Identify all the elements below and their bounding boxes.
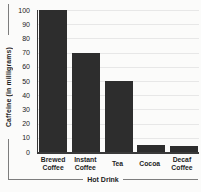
- ytick-0: 0: [0, 148, 30, 157]
- ytick-20: 20: [0, 119, 30, 128]
- ytick-90: 90: [0, 20, 30, 29]
- ytick-100: 100: [0, 6, 30, 15]
- bar-cocoa: [137, 145, 165, 152]
- ytick-30: 30: [0, 105, 30, 114]
- ytick-70: 70: [0, 48, 30, 57]
- x-axis-title: Hot Drink: [87, 176, 119, 183]
- plot-area: [37, 10, 199, 154]
- bar-instant-coffee: [72, 53, 100, 152]
- bar-brewed-coffee: [39, 10, 67, 152]
- x-axis-title-row: Hot Drink: [8, 174, 198, 184]
- x-axis-category-labels: Brewed CoffeeInstant CoffeeTeaCocoaDecaf…: [37, 155, 198, 173]
- bar-tea: [105, 81, 133, 152]
- xlabel-brewed-coffee: Brewed Coffee: [37, 155, 69, 173]
- ytick-50: 50: [0, 77, 30, 86]
- ytick-80: 80: [0, 34, 30, 43]
- xlabel-cocoa: Cocoa: [134, 155, 166, 173]
- ytick-40: 40: [0, 91, 30, 100]
- bar-decaf-coffee: [170, 146, 198, 152]
- ytick-10: 10: [0, 133, 30, 142]
- y-axis-tick-labels: 0102030405060708090100: [0, 10, 34, 152]
- xlabel-instant-coffee: Instant Coffee: [69, 155, 101, 173]
- bar-series: [38, 10, 199, 152]
- xlabel-tea: Tea: [101, 155, 133, 173]
- caffeine-bar-chart-figure: Caffeine (in milligrams) 010203040506070…: [0, 0, 201, 192]
- xlabel-decaf-coffee: Decaf Coffee: [166, 155, 198, 173]
- ytick-60: 60: [0, 62, 30, 71]
- x-axis-label-left-line: [8, 179, 83, 180]
- x-axis-label-right-line: [123, 179, 198, 180]
